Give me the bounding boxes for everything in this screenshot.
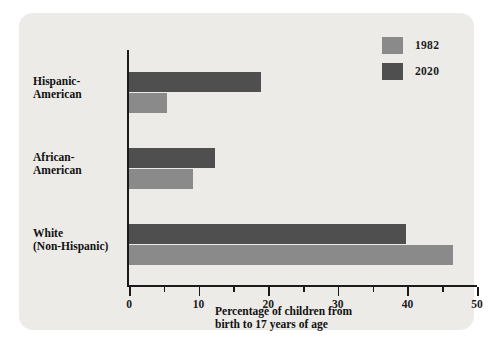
bar-2020-hispanic-american [129, 72, 261, 92]
category-axis-labels: Hispanic- American African- American Whi… [31, 50, 125, 285]
x-tick-minor-45 [442, 287, 444, 292]
category-label-line2: (Non-Hispanic) [33, 240, 125, 253]
x-axis-title-line1: Percentage of children from [215, 305, 445, 318]
x-tick-minor-25 [303, 287, 305, 292]
category-label-white-non-hispanic: White (Non-Hispanic) [33, 227, 125, 252]
x-tick-major-10 [199, 287, 201, 296]
bar-1982-african-american [129, 169, 193, 189]
x-tick-major-30 [338, 287, 340, 296]
x-tick-label-0: 0 [126, 298, 132, 310]
category-label-line2: American [33, 164, 125, 177]
x-axis-title: Percentage of children from birth to 17 … [215, 305, 445, 331]
bar-1982-white-non-hispanic [129, 245, 453, 265]
x-tick-major-40 [407, 287, 409, 296]
chart-panel: 1982 2020 Hispanic- American African- Am… [19, 13, 474, 330]
x-tick-major-50 [477, 287, 479, 296]
bar-2020-white-non-hispanic [129, 224, 406, 244]
x-tick-minor-15 [233, 287, 235, 292]
x-axis-line [127, 285, 477, 287]
x-tick-major-20 [268, 287, 270, 296]
x-tick-label-50: 50 [471, 298, 483, 310]
x-tick-label-10: 10 [193, 298, 205, 310]
category-label-line2: American [33, 88, 125, 101]
category-label-african-american: African- American [33, 151, 125, 176]
bar-1982-hispanic-american [129, 93, 167, 113]
category-label-line1: African- [33, 151, 125, 164]
bar-2020-african-american [129, 148, 215, 168]
category-label-line1: Hispanic- [33, 75, 125, 88]
plot-area: 01020304050 [129, 50, 477, 285]
x-tick-minor-35 [373, 287, 375, 292]
category-label-line1: White [33, 227, 125, 240]
x-axis-title-line2: birth to 17 years of age [215, 318, 445, 331]
x-tick-minor-5 [164, 287, 166, 292]
x-tick-major-0 [129, 287, 131, 296]
category-label-hispanic-american: Hispanic- American [33, 75, 125, 100]
